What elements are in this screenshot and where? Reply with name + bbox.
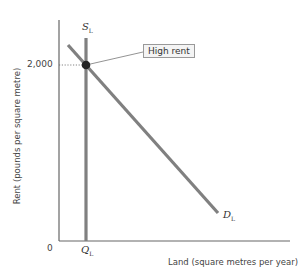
supply-label-sub: L (89, 27, 93, 34)
equilibrium-point (82, 61, 91, 70)
x-axis-label: Land (square metres per year) (168, 257, 298, 267)
supply-demand-land-chart: Rent (pounds per square metre) Land (squ… (0, 0, 306, 279)
demand-label-sub: L (231, 215, 235, 222)
quantity-label: QL (81, 244, 93, 257)
supply-label-main: S (82, 21, 89, 32)
quantity-label-main: Q (81, 244, 89, 255)
chart-plot (0, 0, 306, 279)
quantity-label-sub: L (89, 250, 93, 257)
demand-curve (68, 45, 218, 213)
annotation-leader-line (86, 52, 143, 65)
high-rent-annotation: High rent (143, 44, 195, 58)
supply-label: SL (82, 21, 93, 34)
demand-label-main: D (223, 209, 231, 220)
y-tick-2000: 2,000 (27, 59, 53, 69)
demand-label: DL (223, 209, 235, 222)
y-axis-label: Rent (pounds per square metre) (12, 66, 24, 206)
origin-label: 0 (47, 243, 53, 253)
